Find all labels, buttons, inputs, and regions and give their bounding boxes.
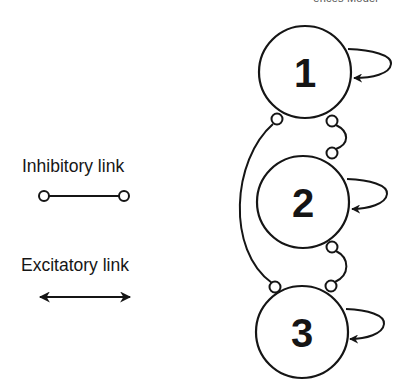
node-1-label: 1 [294,51,316,95]
node-2-label: 2 [292,181,314,225]
inhibitory-link-1-2 [327,116,347,159]
excitatory-self-loop-1 [348,49,391,78]
node-3-label: 3 [291,311,313,355]
node-3: 3 [256,286,348,378]
node-2: 2 [257,156,349,248]
inhibitory-link-2-3 [326,242,347,292]
node-1: 1 [259,26,351,118]
excitatory-self-loop-3 [346,309,384,339]
network-diagram: 1 2 3 [0,0,408,390]
legend-inhibitory-symbol [39,191,129,201]
excitatory-self-loop-2 [347,179,387,209]
